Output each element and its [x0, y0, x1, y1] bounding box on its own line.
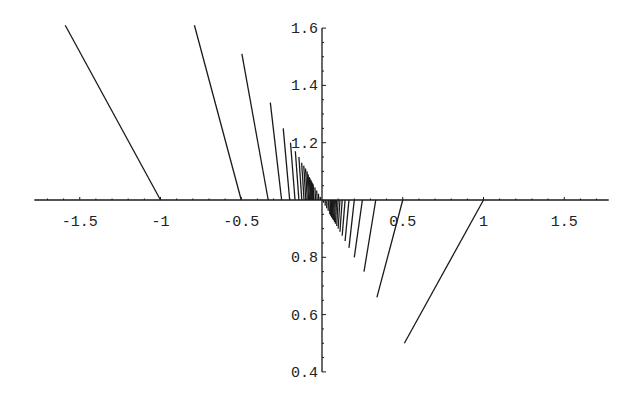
x-tick-label: -1 — [151, 214, 169, 231]
chart-plot: -1.5-1-0.50.511.5 1.61.41.20.80.60.4 — [0, 0, 636, 411]
x-tick-label: -0.5 — [223, 214, 259, 231]
y-tick-label: 0.6 — [291, 308, 318, 325]
y-tick-label: 1.2 — [291, 136, 318, 153]
line-segment — [194, 25, 241, 200]
y-tick-label: 1.6 — [291, 21, 318, 38]
y-tick-labels: 1.61.41.20.80.60.4 — [291, 21, 318, 382]
line-segment — [283, 128, 289, 200]
series-segments-left — [65, 25, 320, 200]
y-tick-label: 0.4 — [291, 365, 318, 382]
line-segment — [342, 200, 345, 236]
line-segment — [65, 25, 160, 200]
x-tick-label: 1.5 — [551, 214, 578, 231]
line-segment — [354, 200, 362, 257]
line-segment — [270, 103, 281, 200]
line-segment — [349, 200, 354, 248]
line-segment — [345, 200, 349, 241]
line-segment — [364, 200, 376, 272]
line-segment — [313, 185, 314, 200]
x-tick-labels: -1.5-1-0.50.511.5 — [62, 214, 578, 231]
line-segment — [315, 187, 316, 200]
x-tick-label: -1.5 — [62, 214, 98, 231]
y-tick-label: 1.4 — [291, 78, 318, 95]
x-tick-label: 1 — [479, 214, 488, 231]
y-tick-label: 0.8 — [291, 250, 318, 267]
x-tick-label: 0.5 — [389, 214, 416, 231]
line-segment — [242, 54, 268, 200]
